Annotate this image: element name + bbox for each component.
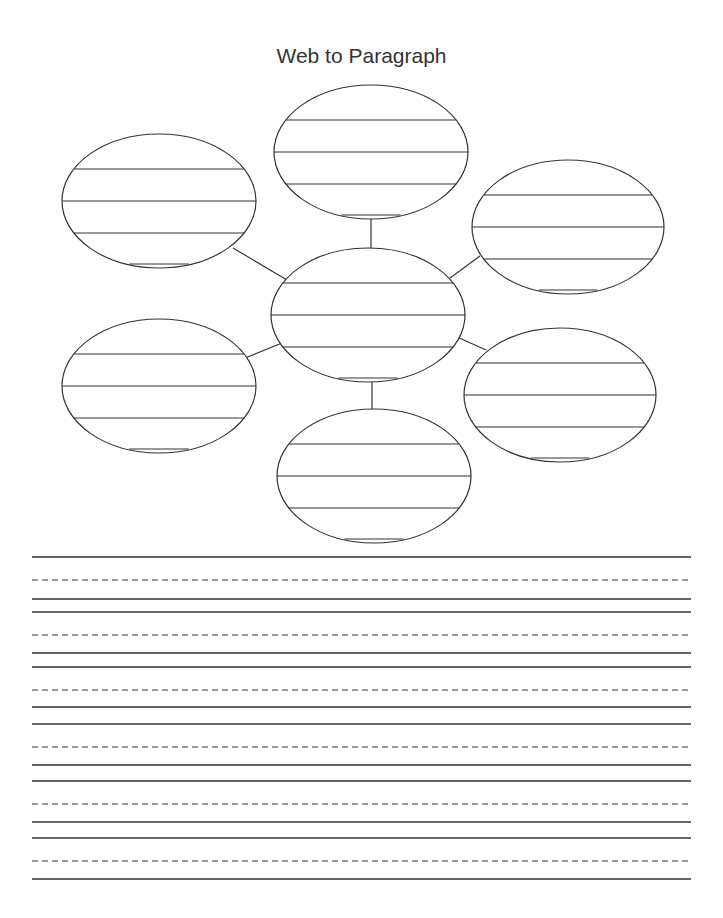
handwriting-row-6[interactable] [32,838,691,879]
handwriting-row-3[interactable] [32,667,691,707]
handwriting-row-2[interactable] [32,612,691,653]
handwriting-row-4[interactable] [32,724,691,765]
handwriting-row-5[interactable] [32,781,691,822]
handwriting-row-1[interactable] [32,557,691,599]
handwriting-lines [0,0,723,918]
